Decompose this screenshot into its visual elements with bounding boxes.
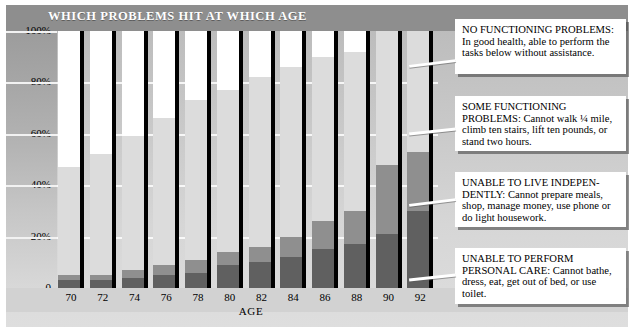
bar-age-84	[280, 31, 306, 288]
bar-segment-2	[90, 154, 112, 275]
bar-segment-1	[185, 260, 207, 273]
bar-segment-0	[344, 244, 366, 288]
y-axis-gridline	[6, 237, 57, 239]
bar-segment-2	[185, 100, 207, 259]
bar-age-92	[407, 31, 433, 288]
legend-item-description: In good health, able to perform the task…	[462, 36, 609, 59]
bar-age-76	[153, 31, 179, 288]
bar-segment-3	[217, 31, 239, 90]
bar-segment-0	[58, 280, 80, 288]
x-tick-label: 72	[88, 291, 118, 303]
x-tick-label: 92	[405, 291, 435, 303]
x-axis-label: AGE	[196, 305, 306, 317]
y-axis-gridline	[6, 31, 57, 33]
chart-title: WHICH PROBLEMS HIT AT WHICH AGE	[48, 9, 307, 24]
bar-segment-0	[122, 278, 144, 288]
x-tick-label: 84	[278, 291, 308, 303]
bar-segment-3	[122, 31, 144, 136]
bar-segment-3	[312, 31, 334, 57]
bar-segment-0	[376, 234, 398, 288]
x-tick-label: 82	[247, 291, 277, 303]
bar-segment-2	[122, 136, 144, 270]
plot-area	[57, 31, 438, 288]
bar-age-78	[185, 31, 211, 288]
bar-age-82	[249, 31, 275, 288]
bar-segment-1	[58, 275, 80, 280]
bar-age-90	[376, 31, 402, 288]
bar-segment-0	[249, 262, 271, 288]
legend-item-some-functioning-problems: SOME FUNCTIONING PROBLEMS: Cannot walk ¼…	[455, 96, 626, 151]
bar-segment-3	[90, 31, 112, 154]
x-tick-label: 90	[374, 291, 404, 303]
bar-segment-2	[249, 77, 271, 247]
bar-segment-0	[185, 273, 207, 288]
bar-segment-3	[185, 31, 207, 100]
bar-segment-2	[217, 90, 239, 252]
x-tick-label: 74	[120, 291, 150, 303]
bar-segment-1	[90, 275, 112, 280]
y-axis-gridline	[6, 134, 57, 136]
x-tick-label: 78	[183, 291, 213, 303]
bar-age-80	[217, 31, 243, 288]
bar-segment-2	[312, 57, 334, 221]
legend-item-no-functioning-problems: NO FUNCTIONING PROBLEMS: In good health,…	[455, 19, 626, 74]
bar-segment-2	[376, 31, 398, 165]
bar-age-70	[58, 31, 84, 288]
bar-segment-3	[280, 31, 302, 67]
y-axis-gridline	[6, 82, 57, 84]
bar-segment-0	[312, 249, 334, 288]
bar-segment-3	[58, 31, 80, 167]
bar-segment-2	[153, 118, 175, 264]
bar-segment-3	[153, 31, 175, 118]
x-tick-label: 70	[56, 291, 86, 303]
legend-item-unable-to-perform-personal-care: UNABLE TO PERFORM PERSONAL CARE: Cannot …	[455, 248, 626, 304]
bar-segment-2	[58, 167, 80, 275]
legend-item-heading: NO FUNCTIONING PROBLEMS:	[462, 24, 614, 35]
legend-item-unable-to-live-independently: UNABLE TO LIVE INDEPEN-DENTLY: Cannot pr…	[455, 172, 626, 227]
x-tick-label: 88	[342, 291, 372, 303]
y-axis-strip	[6, 31, 57, 288]
bar-age-86	[312, 31, 338, 288]
bar-age-88	[344, 31, 370, 288]
bar-segment-0	[153, 275, 175, 288]
bar-segment-1	[280, 237, 302, 258]
bar-segment-0	[217, 265, 239, 288]
y-axis-gridline	[6, 185, 57, 187]
bar-segment-1	[344, 211, 366, 244]
bar-age-74	[122, 31, 148, 288]
bar-segment-1	[249, 247, 271, 262]
bar-segment-2	[280, 67, 302, 237]
x-tick-label: 76	[151, 291, 181, 303]
bar-segment-1	[217, 252, 239, 265]
bar-segment-0	[90, 280, 112, 288]
bar-segment-3	[344, 31, 366, 52]
bar-segment-1	[376, 165, 398, 234]
x-tick-label: 86	[310, 291, 340, 303]
bar-age-72	[90, 31, 116, 288]
bar-segment-0	[280, 257, 302, 288]
bar-segment-1	[153, 265, 175, 275]
bar-segment-3	[249, 31, 271, 77]
chart-screenshot: WHICH PROBLEMS HIT AT WHICH AGE 100%80%6…	[0, 0, 634, 332]
bar-segment-1	[122, 270, 144, 278]
bar-segment-2	[344, 52, 366, 211]
bar-segment-1	[312, 221, 334, 249]
x-tick-label: 80	[215, 291, 245, 303]
